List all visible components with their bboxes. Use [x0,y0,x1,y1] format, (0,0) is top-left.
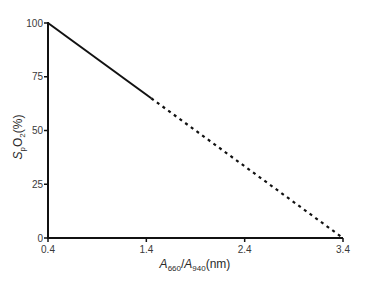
x-tick-label: 3.4 [336,244,350,255]
y-tick-label: 25 [32,179,44,190]
x-axis: 0.41.42.43.4 [41,238,350,255]
y-axis: 0255075100 [26,18,48,244]
x-tick-label: 0.4 [41,244,55,255]
y-tick-label: 50 [32,125,44,136]
y-tick-label: 0 [37,233,43,244]
x-axis-title: A660/A940(nm) [159,257,231,273]
dotted-line-series [151,98,343,238]
solid-line-series [48,23,151,98]
x-tick-label: 2.4 [238,244,252,255]
y-axis-title: SpO2(%) [11,115,27,160]
plot-area [48,23,343,238]
x-tick-label: 1.4 [139,244,153,255]
chart: 0255075100 0.41.42.43.4 SpO2(%) A660/A94… [0,0,368,282]
y-tick-label: 100 [26,18,43,29]
y-tick-label: 75 [32,71,44,82]
